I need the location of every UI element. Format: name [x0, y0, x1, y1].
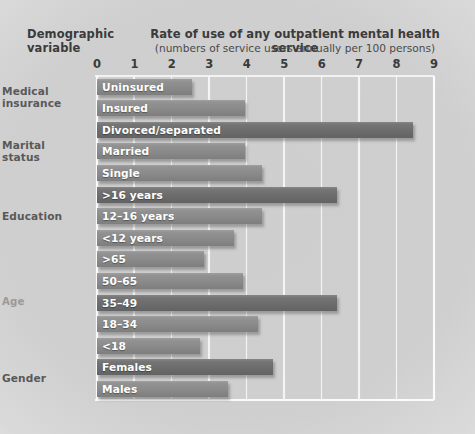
bar-label: Married [102, 143, 149, 159]
bar-label: Uninsured [102, 79, 164, 95]
bar-label: Females [102, 359, 152, 375]
bar-label: Divorced/separated [102, 122, 221, 138]
bar-row[interactable]: >16 years [97, 187, 434, 203]
x-axis-tick-7: 7 [355, 57, 363, 71]
bar-row[interactable]: 18–34 [97, 316, 434, 332]
chart-subtitle: (numbers of service users annually per 1… [130, 42, 460, 55]
plot-top-border [95, 75, 434, 77]
x-axis-tick-4: 4 [243, 57, 251, 71]
bar-row[interactable]: <18 [97, 338, 434, 354]
bar-label: 18–34 [102, 316, 137, 332]
group-label-age: Age [2, 296, 94, 309]
bar-row[interactable]: Insured [97, 100, 434, 116]
x-axis-tick-9: 9 [430, 57, 438, 71]
x-axis-tick-2: 2 [168, 57, 176, 71]
bar-row[interactable]: Males [97, 381, 434, 397]
bar-label: <18 [102, 338, 126, 354]
bar-row[interactable]: 35–49 [97, 295, 434, 311]
group-label-gender: Gender [2, 372, 94, 385]
group-label-column: MedicalinsuranceMaritalstatusEducationAg… [2, 76, 94, 400]
bar-row[interactable]: Married [97, 143, 434, 159]
bar-row[interactable]: 50–65 [97, 273, 434, 289]
bar-row[interactable]: Females [97, 359, 434, 375]
chart-figure: Demographicvariable Rate of use of any o… [0, 0, 475, 434]
group-label-marital-status: Maritalstatus [2, 139, 94, 164]
bar-row[interactable]: Single [97, 165, 434, 181]
bar-label: >65 [102, 251, 126, 267]
plot-area: UninsuredInsuredDivorced/separatedMarrie… [97, 76, 434, 400]
group-label-medical-insurance: Medicalinsurance [2, 85, 94, 110]
x-axis-tick-0: 0 [93, 57, 101, 71]
bar-row[interactable]: >65 [97, 251, 434, 267]
bar-row[interactable]: <12 years [97, 230, 434, 246]
x-axis-tick-5: 5 [280, 57, 288, 71]
x-axis-tick-6: 6 [318, 57, 326, 71]
bar-row[interactable]: 12–16 years [97, 208, 434, 224]
x-axis-tick-1: 1 [130, 57, 138, 71]
x-axis-tick-8: 8 [393, 57, 401, 71]
bar-label: Insured [102, 100, 148, 116]
bar-label: 50–65 [102, 273, 137, 289]
x-axis-tick-3: 3 [205, 57, 213, 71]
demographic-variable-header: Demographicvariable [27, 28, 137, 55]
bar-label: Males [102, 381, 137, 397]
bar-label: 35–49 [102, 295, 137, 311]
group-label-education: Education [2, 210, 94, 223]
bar-label: Single [102, 165, 140, 181]
bar-label: 12–16 years [102, 208, 174, 224]
bar-label: <12 years [102, 230, 163, 246]
plot-bottom-border [95, 399, 434, 401]
bar-row[interactable]: Divorced/separated [97, 122, 434, 138]
bar-label: >16 years [102, 187, 163, 203]
bar-row[interactable]: Uninsured [97, 79, 434, 95]
